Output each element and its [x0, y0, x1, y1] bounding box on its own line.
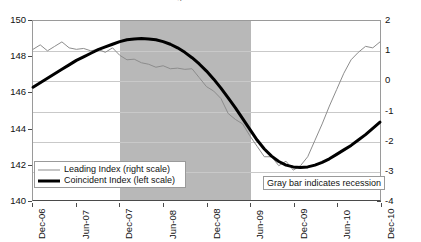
x-axis-tick-label: Jun-09: [254, 210, 265, 239]
x-axis-tick-label: Dec-10: [385, 208, 396, 239]
chart-container: Leading and Coincident Indexes 150148146…: [0, 0, 421, 242]
y-axis-left-tick-label: 148: [0, 50, 26, 61]
x-axis-tick-label: Jun-10: [341, 210, 352, 239]
chart-title: Leading and Coincident Indexes: [0, 0, 421, 1]
legend-label-coincident: Coincident Index (left scale): [64, 175, 175, 186]
y-axis-left-tick-label: 146: [0, 86, 26, 97]
x-axis-tick-mark: [119, 203, 120, 207]
y-axis-right-tick-label: 0: [385, 74, 390, 85]
y-axis-left-tick-label: 144: [0, 123, 26, 134]
x-axis-tick-label: Jun-07: [80, 210, 91, 239]
x-axis-tick-label: Dec-09: [298, 208, 309, 239]
y-axis-right-tick-label: -2: [385, 135, 393, 146]
y-axis-left-tick-label: 142: [0, 159, 26, 170]
legend-item-leading: Leading Index (right scale): [38, 164, 182, 175]
recession-note: Gray bar indicates recession: [263, 176, 385, 190]
x-axis-tick-label: Dec-06: [36, 208, 47, 239]
chart-legend: Leading Index (right scale) Coincident I…: [34, 161, 186, 188]
legend-item-coincident: Coincident Index (left scale): [38, 175, 182, 186]
x-axis-tick-mark: [250, 203, 251, 207]
x-axis-tick-label: Jun-08: [167, 210, 178, 239]
x-axis-tick-mark: [32, 203, 33, 207]
x-axis: Dec-06Jun-07Dec-07Jun-08Dec-08Jun-09Dec-…: [0, 203, 421, 242]
x-axis-tick-label: Dec-07: [123, 208, 134, 239]
x-axis-tick-mark: [76, 203, 77, 207]
y-axis-right-tick-label: -1: [385, 105, 393, 116]
x-axis-tick-mark: [207, 203, 208, 207]
series-line-leading: [33, 42, 380, 170]
x-axis-tick-mark: [381, 203, 382, 207]
legend-label-leading: Leading Index (right scale): [64, 164, 170, 175]
y-axis-right-tick-label: 2: [385, 14, 390, 25]
x-axis-tick-mark: [163, 203, 164, 207]
x-axis-tick-mark: [337, 203, 338, 207]
x-axis-tick-label: Dec-08: [211, 208, 222, 239]
x-axis-tick-mark: [294, 203, 295, 207]
series-line-coincident: [33, 39, 380, 168]
y-axis-left-tick-mark: [28, 201, 32, 202]
y-axis-left-tick-label: 150: [0, 14, 26, 25]
y-axis-right-tick-label: 1: [385, 44, 390, 55]
y-axis-right-tick-mark: [377, 201, 381, 202]
y-axis-right-tick-label: -3: [385, 165, 393, 176]
